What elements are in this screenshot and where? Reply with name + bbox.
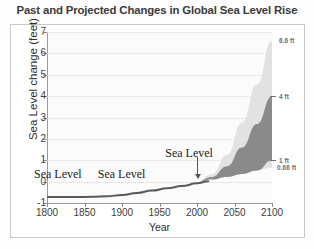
x-axis-tick-label: 2000 [177, 207, 217, 218]
y-axis-title: Sea Level change (feet) [27, 0, 39, 159]
scenario-tick [270, 96, 276, 97]
page-title: Past and Projected Changes in Global Sea… [0, 4, 314, 16]
x-axis-tick-label: 2100 [252, 207, 292, 218]
x-axis-title: Year [47, 221, 272, 233]
scenario-label: 1 ft [279, 157, 289, 164]
scenario-label: 0.66 ft [277, 164, 296, 171]
x-axis-tick-label: 1850 [65, 207, 105, 218]
annotation-arrow-icon [197, 157, 198, 176]
sea-level-rise-figure: Past and Projected Changes in Global Sea… [0, 0, 314, 249]
annotation-sea-level-2: Sea Level [98, 167, 146, 182]
x-axis-tick-label: 2050 [215, 207, 255, 218]
observed-sea-level-line [47, 181, 208, 197]
annotation-sea-level-3: Sea Level [165, 146, 213, 161]
scenario-label: 6.6 ft [279, 37, 295, 44]
scenario-label: 4 ft [279, 93, 289, 100]
scenario-tick [270, 160, 276, 161]
x-axis-tick-label: 1900 [102, 207, 142, 218]
x-axis-tick-label: 1800 [27, 207, 67, 218]
annotation-sea-level-1: Sea Level [34, 167, 82, 182]
x-axis-tick-label: 1950 [140, 207, 180, 218]
